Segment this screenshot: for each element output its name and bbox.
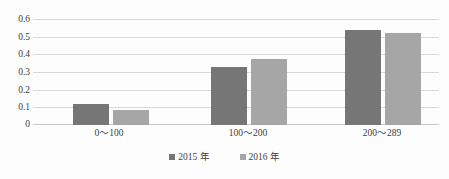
- bar-2015-0-100[interactable]: [73, 104, 109, 125]
- legend-item-2015[interactable]: 2015 年: [169, 152, 209, 162]
- y-axis-label-0.2: 0.2: [0, 86, 30, 96]
- bar-group-0-100: [73, 19, 149, 125]
- bar-group-200-289: [345, 19, 421, 125]
- bar-2015-200-289[interactable]: [345, 30, 381, 125]
- legend-swatch-icon-2015: [169, 154, 175, 160]
- bar-chart: 0.6 0.5 0.4 0.3 0.2 0.1 0 0～100 100～200 …: [0, 0, 449, 179]
- chart-title-cropped: [0, 0, 449, 10]
- y-axis-label-0: 0: [0, 120, 30, 130]
- bar-2015-100-200[interactable]: [211, 67, 247, 125]
- y-axis-label-0.3: 0.3: [0, 68, 30, 78]
- legend-label-2015: 2015 年: [178, 152, 209, 162]
- y-axis-label-0.1: 0.1: [0, 103, 30, 113]
- chart-legend: 2015 年 2016 年: [0, 152, 449, 162]
- y-axis-label-0.4: 0.4: [0, 50, 30, 60]
- bar-group-100-200: [211, 19, 287, 125]
- bar-2016-100-200[interactable]: [251, 59, 287, 125]
- x-axis-label-200-289: 200～289: [306, 128, 449, 139]
- x-axis-label-100-200: 100～200: [172, 128, 324, 139]
- legend-swatch-icon-2016: [240, 154, 246, 160]
- y-axis-label-0.5: 0.5: [0, 33, 30, 43]
- bars-layer: [33, 19, 439, 125]
- x-axis-label-0-100: 0～100: [33, 128, 185, 139]
- legend-item-2016[interactable]: 2016 年: [240, 152, 280, 162]
- bar-2016-0-100[interactable]: [113, 110, 149, 125]
- legend-label-2016: 2016 年: [249, 152, 280, 162]
- y-axis-label-0.6: 0.6: [0, 15, 30, 25]
- bar-2016-200-289[interactable]: [385, 33, 421, 125]
